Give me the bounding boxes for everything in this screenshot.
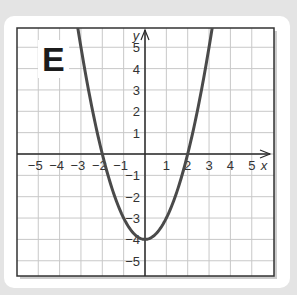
panel-label: E xyxy=(38,40,69,78)
x-tick-label: −4 xyxy=(49,158,64,173)
y-tick-label: −1 xyxy=(125,168,140,183)
x-tick-label: 3 xyxy=(205,158,212,173)
y-tick-label: 3 xyxy=(133,83,140,98)
y-tick-label: 4 xyxy=(133,62,140,77)
x-axis-label: x xyxy=(260,158,268,173)
x-tick-label: 1 xyxy=(163,158,170,173)
y-tick-label: −4 xyxy=(125,232,140,247)
x-tick-label: 4 xyxy=(227,158,234,173)
x-tick-label: −3 xyxy=(71,158,86,173)
y-tick-label: 1 xyxy=(133,126,140,141)
x-tick-label: −5 xyxy=(28,158,43,173)
y-tick-label: 2 xyxy=(133,104,140,119)
x-tick-label: 5 xyxy=(248,158,255,173)
y-tick-label: −5 xyxy=(125,254,140,269)
y-tick-label: −2 xyxy=(125,190,140,205)
